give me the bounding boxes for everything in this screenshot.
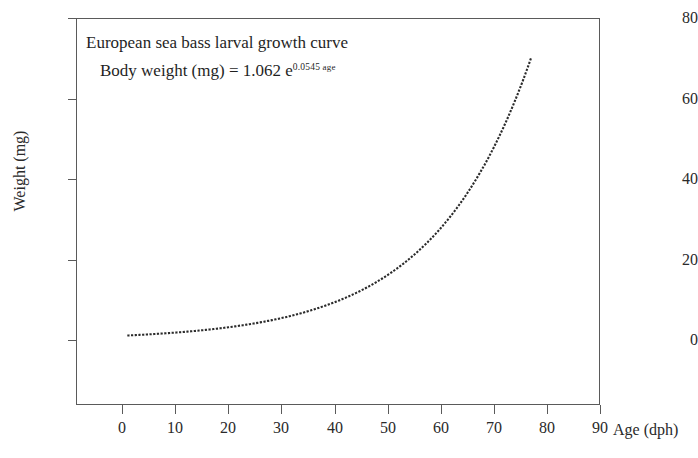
x-axis-title: Age (dph)	[613, 421, 678, 439]
y-tick-20	[68, 260, 77, 261]
x-tick-label-80: 80	[527, 420, 567, 436]
y-tick-0	[68, 340, 77, 341]
annotation-equation: Body weight (mg) = 1.062 e0.0545 age	[86, 55, 416, 83]
x-tick-80	[547, 405, 548, 414]
x-tick-20	[228, 405, 229, 414]
x-tick-label-60: 60	[421, 420, 461, 436]
chart-annotation: European sea bass larval growth curve Bo…	[86, 31, 416, 83]
x-tick-label-0: 0	[102, 420, 142, 436]
x-tick-10	[175, 405, 176, 414]
y-tick-label-60: 60	[650, 91, 698, 107]
y-axis-title: Weight (mg)	[11, 111, 29, 231]
y-tick-label-0: 0	[650, 332, 698, 348]
y-tick-label-40: 40	[650, 171, 698, 187]
y-tick-80	[68, 18, 77, 19]
x-tick-60	[441, 405, 442, 414]
x-tick-label-50: 50	[368, 420, 408, 436]
equation-exponent-word: age	[320, 62, 336, 72]
equation-exponent-number: 0.0545	[293, 62, 320, 72]
x-tick-0	[122, 405, 123, 414]
annotation-title: European sea bass larval growth curve	[86, 31, 416, 55]
x-tick-label-40: 40	[315, 420, 355, 436]
equation-exponent: 0.0545 age	[293, 62, 336, 72]
y-tick-40	[68, 179, 77, 180]
y-tick-label-20: 20	[650, 252, 698, 268]
y-tick-label-80: 80	[650, 10, 698, 26]
x-tick-30	[281, 405, 282, 414]
x-tick-40	[335, 405, 336, 414]
x-tick-label-20: 20	[208, 420, 248, 436]
x-tick-label-70: 70	[474, 420, 514, 436]
equation-prefix: Body weight (mg) = 1.062 e	[100, 61, 293, 80]
y-tick-60	[68, 99, 77, 100]
x-tick-label-10: 10	[155, 420, 195, 436]
x-tick-90	[600, 405, 601, 414]
x-tick-70	[494, 405, 495, 414]
chart-page: 80 60 40 20 0 0 10 20 30 40 50 60 70 80 …	[0, 0, 698, 458]
x-tick-50	[388, 405, 389, 414]
x-tick-label-30: 30	[261, 420, 301, 436]
